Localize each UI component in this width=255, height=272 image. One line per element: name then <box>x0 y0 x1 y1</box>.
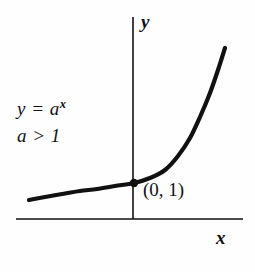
y-axis-label: y <box>141 12 149 31</box>
x-axis-label: x <box>216 228 226 247</box>
equation-annotation: y = ax a > 1 <box>17 98 67 152</box>
equation-base: y = a <box>17 98 60 119</box>
point-label: (0, 1) <box>143 180 184 199</box>
condition-line: a > 1 <box>17 125 67 147</box>
equation-exponent: x <box>60 97 67 111</box>
equation-line: y = ax <box>17 98 67 120</box>
y-intercept-point <box>130 179 138 187</box>
exponential-function-figure: y x y = ax a > 1 (0, 1) <box>0 0 255 272</box>
